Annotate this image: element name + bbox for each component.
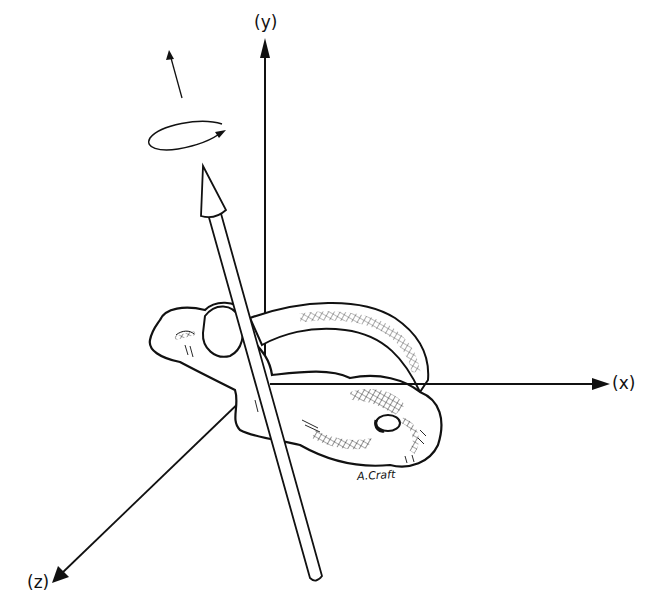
- illustration-canvas: [0, 0, 652, 602]
- y-axis-label: (y): [254, 12, 277, 32]
- direction-arrow-icon: [166, 50, 182, 98]
- z-axis: [52, 394, 248, 583]
- z-axis-label: (z): [27, 572, 49, 592]
- x-axis-label: (x): [612, 373, 635, 393]
- artist-signature: A.Craft: [357, 468, 396, 483]
- rotation-circle-arrow-icon: [149, 121, 226, 150]
